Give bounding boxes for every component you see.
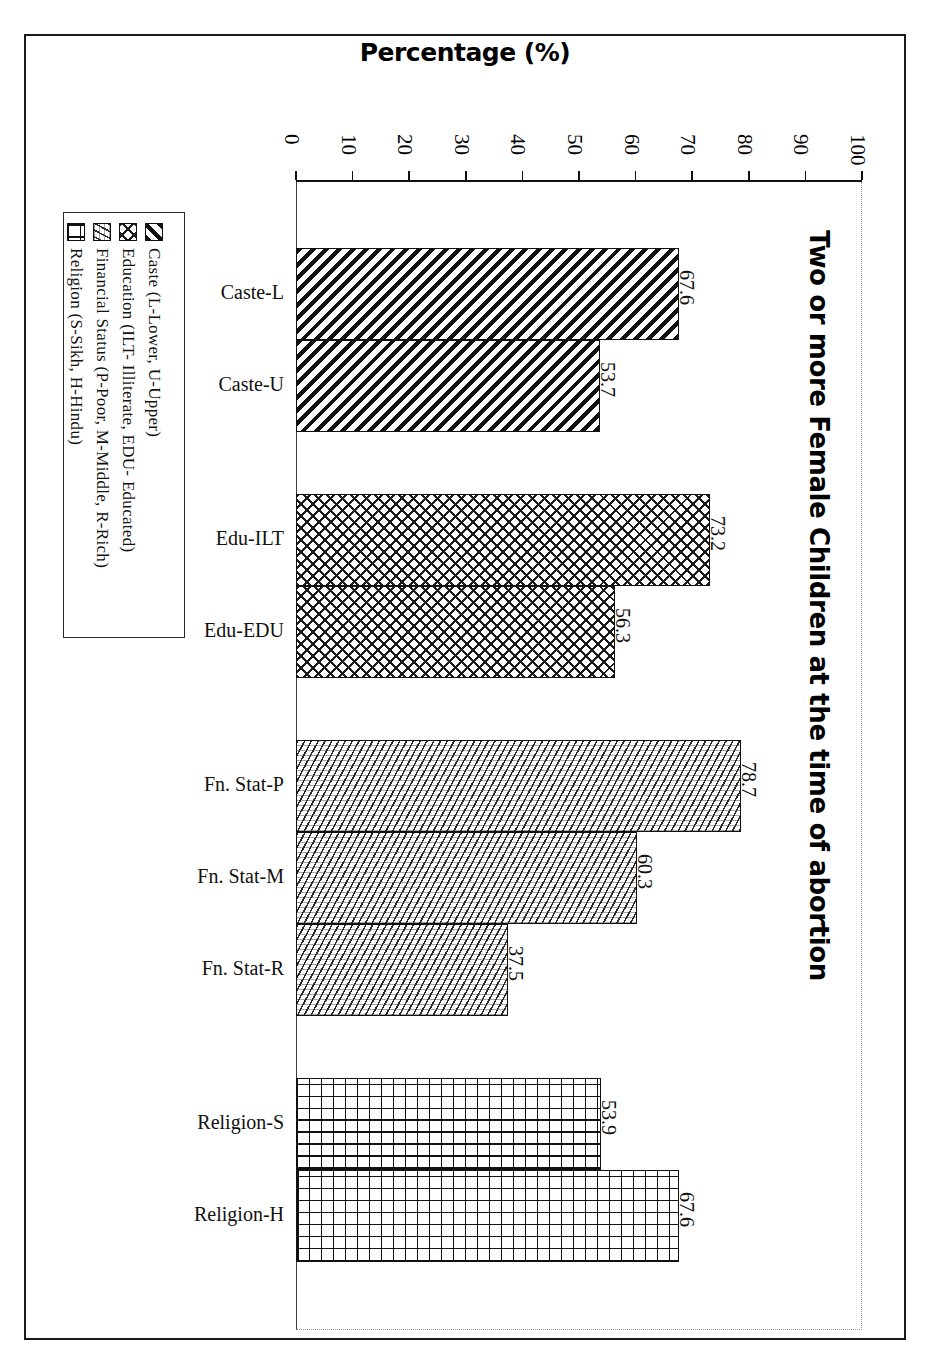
bar-value-label: 53.9 bbox=[597, 1100, 620, 1135]
crosshatch-swatch bbox=[119, 223, 137, 241]
axis-tick-label: 60 bbox=[619, 134, 644, 155]
axis-tick bbox=[635, 171, 637, 180]
axis-tick-label: 30 bbox=[449, 134, 474, 155]
axis-tick-label: 100 bbox=[845, 134, 870, 166]
axis-tick-label: 50 bbox=[562, 134, 587, 155]
bar-religion-s bbox=[296, 1078, 601, 1170]
bar-fn-stat-r bbox=[296, 924, 508, 1016]
category-label: Fn. Stat-P bbox=[116, 773, 284, 796]
axis-tick bbox=[352, 171, 354, 180]
legend-item-label: Education (ILT- Illiterate, EDU- Educate… bbox=[118, 248, 138, 552]
bar-fn-stat-m bbox=[296, 832, 637, 924]
legend: Caste (L-Lower, U-Upper)Education (ILT- … bbox=[63, 212, 185, 638]
axis-tick-label: 40 bbox=[505, 134, 530, 155]
bar-value-label: 53.7 bbox=[596, 362, 619, 397]
axis-tick bbox=[861, 171, 863, 180]
bar-edu-edu bbox=[296, 586, 615, 678]
axis-tick bbox=[408, 171, 410, 180]
bar-edu-ilt bbox=[296, 494, 710, 586]
bar-value-label: 56.3 bbox=[611, 608, 634, 643]
axis-tick-label: 0 bbox=[279, 134, 304, 145]
bar-religion-h bbox=[296, 1170, 679, 1262]
axis-tick bbox=[295, 171, 297, 180]
bar-value-label: 67.6 bbox=[675, 270, 698, 305]
legend-item: Education (ILT- Illiterate, EDU- Educate… bbox=[112, 223, 138, 633]
axis-tick bbox=[805, 171, 807, 180]
axis-title: Percentage (%) bbox=[0, 38, 930, 67]
bar-value-label: 73.2 bbox=[706, 516, 729, 551]
legend-item: Religion (S-Sikh, H-Hindu) bbox=[60, 223, 86, 633]
axis-tick bbox=[522, 171, 524, 180]
category-label: Fn. Stat-R bbox=[116, 957, 284, 980]
legend-item: Caste (L-Lower, U-Upper) bbox=[138, 223, 164, 633]
category-label: Fn. Stat-M bbox=[116, 865, 284, 888]
bar-value-label: 78.7 bbox=[737, 762, 760, 797]
category-label: Religion-S bbox=[116, 1111, 284, 1134]
axis-tick-label: 70 bbox=[675, 134, 700, 155]
bar-fn-stat-p bbox=[296, 740, 741, 832]
axis-tick-label: 80 bbox=[732, 134, 757, 155]
axis-tick bbox=[465, 171, 467, 180]
category-label: Religion-H bbox=[116, 1203, 284, 1226]
legend-item-label: Financial Status (P-Poor, M-Middle, R-Ri… bbox=[92, 248, 112, 568]
bar-caste-l bbox=[296, 248, 679, 340]
legend-item-label: Religion (S-Sikh, H-Hindu) bbox=[66, 248, 86, 445]
axis-tick bbox=[578, 171, 580, 180]
grid-swatch bbox=[67, 223, 85, 241]
axis-tick bbox=[691, 171, 693, 180]
bar-value-label: 37.5 bbox=[504, 946, 527, 981]
bar-caste-u bbox=[296, 340, 600, 432]
axis-tick-label: 90 bbox=[788, 134, 813, 155]
legend-item-label: Caste (L-Lower, U-Upper) bbox=[144, 248, 164, 437]
axis-tick-label: 10 bbox=[336, 134, 361, 155]
legend-item: Financial Status (P-Poor, M-Middle, R-Ri… bbox=[86, 223, 112, 633]
diagonal-hatch-swatch bbox=[145, 223, 163, 241]
bar-value-label: 67.6 bbox=[675, 1192, 698, 1227]
axis-tick bbox=[748, 171, 750, 180]
bar-value-label: 60.3 bbox=[633, 854, 656, 889]
axis-tick-label: 20 bbox=[392, 134, 417, 155]
fine-diagonal-swatch bbox=[93, 223, 111, 241]
